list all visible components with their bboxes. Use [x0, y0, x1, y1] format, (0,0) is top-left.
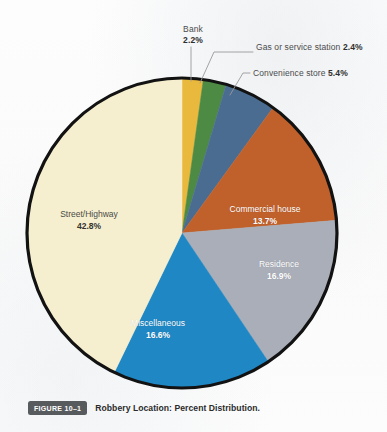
slice-label-miscellaneous-name: Miscellaneous — [108, 317, 208, 329]
slice-label-residence: Residence 16.9% — [238, 258, 320, 282]
callout-convenience-name: Convenience store — [253, 68, 326, 78]
slice-label-commercial-house: Commercial house 13.7% — [215, 203, 315, 227]
callout-convenience-pct: 5.4% — [328, 68, 348, 78]
slice-label-street-highway-name: Street/Highway — [37, 208, 141, 220]
slice-label-commercial-house-name: Commercial house — [215, 203, 315, 215]
callout-bank-pct: 2.2% — [183, 35, 203, 45]
slice-label-street-highway-pct: 42.8% — [37, 220, 141, 232]
callout-gas-or-service-station: Gas or service station 2.4% — [256, 42, 363, 53]
callout-bank-name: Bank — [183, 24, 203, 34]
figure-number-badge: FIGURE 10–1 — [28, 401, 87, 415]
callout-gas-pct: 2.4% — [343, 42, 363, 52]
slice-label-miscellaneous: Miscellaneous 16.6% — [108, 317, 208, 341]
slice-label-residence-name: Residence — [238, 258, 320, 270]
figure-caption-text: Robbery Location: Percent Distribution. — [95, 403, 260, 414]
leader-line-gas — [200, 52, 253, 83]
callout-bank: Bank 2.2% — [167, 24, 219, 46]
slice-label-street-highway: Street/Highway 42.8% — [37, 208, 141, 232]
figure-pie-chart: Bank 2.2% Gas or service station 2.4% Co… — [0, 0, 387, 432]
callout-convenience-store: Convenience store 5.4% — [253, 68, 348, 79]
figure-caption: FIGURE 10–1 Robbery Location: Percent Di… — [28, 401, 260, 415]
slice-label-residence-pct: 16.9% — [238, 270, 320, 282]
slice-label-miscellaneous-pct: 16.6% — [108, 329, 208, 341]
slice-label-commercial-house-pct: 13.7% — [215, 215, 315, 227]
callout-gas-name: Gas or service station — [256, 42, 340, 52]
